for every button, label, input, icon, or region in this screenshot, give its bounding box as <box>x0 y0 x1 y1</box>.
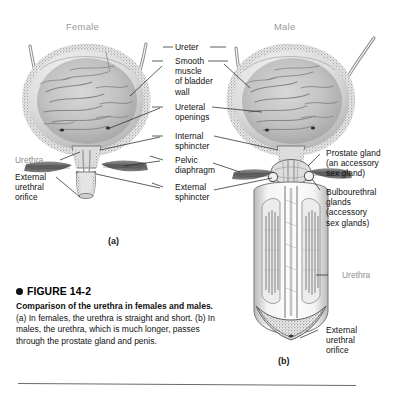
label-urethra-male: Urethra <box>342 270 370 280</box>
figure-caption: FIGURE 14-2 Comparison of the urethra in… <box>16 286 222 347</box>
label-urethra-female: Urethra <box>15 155 43 165</box>
caption-text-a: (a) In females, the urethra is straight … <box>16 313 193 323</box>
label-external-sphincter: External sphincter <box>175 182 209 202</box>
label-external-urethral-orifice-male: External urethral orifice <box>326 325 357 356</box>
label-ureteral-openings: Ureteral openings <box>175 102 209 122</box>
panel-id-a: (a) <box>108 236 119 246</box>
label-ureter: Ureter <box>175 42 199 52</box>
panel-id-b: (b) <box>278 356 290 366</box>
label-prostate-gland: Prostate gland (an accessory sex gland) <box>326 148 381 179</box>
figure-number-line: FIGURE 14-2 <box>16 286 222 297</box>
caption-title: Comparison of the urethra in females and… <box>16 301 213 311</box>
figure-14-2: Female Male Ureter Smooth muscle of blad… <box>0 0 404 402</box>
bullet-icon <box>16 288 23 295</box>
panel-heading-female: Female <box>66 21 99 32</box>
label-pelvic-diaphragm: Pelvic diaphragm <box>175 155 215 175</box>
caption-body: Comparison of the urethra in females and… <box>16 301 222 347</box>
label-bulbourethral-glands: Bulbourethral glands (accessory sex glan… <box>326 187 376 228</box>
label-internal-sphincter: Internal sphincter <box>175 131 209 151</box>
figure-number: FIGURE 14-2 <box>27 286 91 297</box>
panel-heading-male: Male <box>274 21 296 32</box>
label-smooth-muscle: Smooth muscle of bladder wall <box>175 56 213 97</box>
label-external-urethral-orifice-female: External urethral orifice <box>15 172 46 203</box>
